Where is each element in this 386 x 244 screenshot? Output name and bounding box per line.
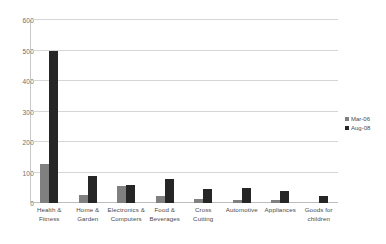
bar-Mar-06-Appliances (271, 200, 280, 203)
x-tick-label-Food & Beverages: Food &Beverages (146, 206, 185, 223)
x-tick-label-Appliances: Appliances (261, 206, 300, 215)
bar-group (184, 20, 223, 203)
bar-Aug-08-Home & Garden (88, 176, 97, 203)
bar-Aug-08-Goods for children (319, 196, 328, 203)
bar-Mar-06-Food & Beverages (156, 196, 165, 203)
bar-Aug-08-Food & Beverages (165, 179, 174, 203)
x-tick-label-line: Cross (184, 206, 223, 215)
bar-group (300, 20, 339, 203)
plot-area (30, 20, 338, 203)
x-tick-label-line: Fitness (30, 215, 69, 224)
bar-Aug-08-Appliances (280, 191, 289, 203)
bar-group (107, 20, 146, 203)
x-tick-label-line: Cutting (184, 215, 223, 224)
x-tick-label-line: Food & (146, 206, 185, 215)
x-tick-label-Goods for children: Goods forchildren (300, 206, 339, 223)
x-tick-label-Electronics & Computers: Electronics &Computers (107, 206, 146, 223)
x-tick-label-line: Automotive (223, 206, 262, 215)
x-tick-label-Home & Garden: Home &Garden (69, 206, 108, 223)
bar-group (69, 20, 108, 203)
legend-label: Mar-06 (351, 116, 370, 122)
bar-Aug-08-Health & Fitness (49, 51, 58, 204)
bar-Mar-06-Electronics & Computers (117, 186, 126, 203)
legend-item-Aug-08[interactable]: Aug-08 (345, 125, 370, 131)
x-tick-label-line: Appliances (261, 206, 300, 215)
bar-Mar-06-Automotive (233, 200, 242, 203)
legend-item-Mar-06[interactable]: Mar-06 (345, 116, 370, 122)
bar-chart: 0100200300400500600 Health &FitnessHome … (0, 0, 386, 244)
x-tick-label-line: Electronics & (107, 206, 146, 215)
legend-label: Aug-08 (351, 125, 370, 131)
legend-swatch-icon (345, 126, 349, 130)
x-tick-label-line: Garden (69, 215, 108, 224)
x-tick-label-line: Computers (107, 215, 146, 224)
bar-Aug-08-Electronics & Computers (126, 185, 135, 203)
x-tick-label-line: Health & (30, 206, 69, 215)
bar-group (223, 20, 262, 203)
x-tick-label-line: children (300, 215, 339, 224)
bar-Aug-08-Automotive (242, 188, 251, 203)
x-tick-label-Health & Fitness: Health &Fitness (30, 206, 69, 223)
x-tick-label-line: Beverages (146, 215, 185, 224)
bar-Mar-06-Health & Fitness (40, 164, 49, 203)
x-tick-label-line: Goods for (300, 206, 339, 215)
bar-group (261, 20, 300, 203)
bar-Aug-08-Cross Cutting (203, 189, 212, 203)
bar-group (146, 20, 185, 203)
bar-Mar-06-Cross Cutting (194, 199, 203, 203)
chart-legend: Mar-06Aug-08 (345, 116, 370, 133)
x-tick-label-Cross Cutting: CrossCutting (184, 206, 223, 223)
bar-Mar-06-Home & Garden (79, 195, 88, 203)
x-tick-label-line: Home & (69, 206, 108, 215)
legend-swatch-icon (345, 117, 349, 121)
bar-group (30, 20, 69, 203)
x-tick-label-Automotive: Automotive (223, 206, 262, 215)
